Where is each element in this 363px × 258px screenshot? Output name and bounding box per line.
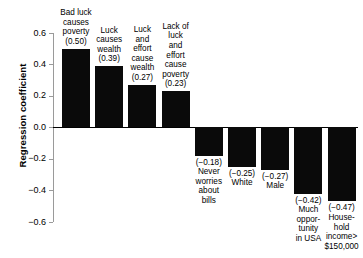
bar (128, 85, 156, 127)
bar (162, 91, 190, 127)
bar (294, 127, 322, 194)
bar-label: (−0.27) Male (252, 172, 298, 191)
bar (261, 127, 289, 170)
bar-chart-figure: Regression coefficient 0.60.40.20.0−0.2−… (0, 0, 363, 258)
bar (328, 127, 356, 201)
bar-label: (−0.47) House- hold income> $150,000 (319, 203, 363, 251)
bar (228, 127, 256, 167)
plot-area: Bad luck causes poverty (0.50)Luck cause… (0, 0, 363, 258)
bar (195, 127, 223, 156)
bar-label: Lack of luck and effort cause poverty (0… (153, 22, 199, 89)
